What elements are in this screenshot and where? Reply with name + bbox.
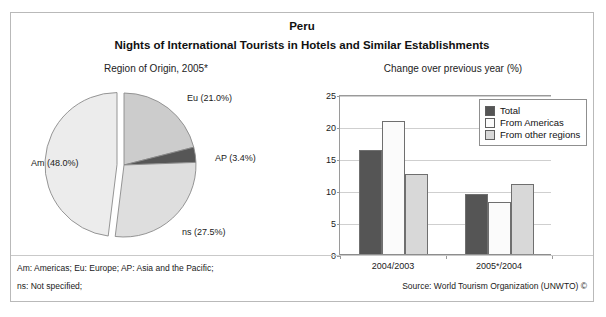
page-title: Peru	[11, 20, 593, 32]
footer-divider	[11, 255, 593, 256]
y-axis-tick-15: 15	[326, 155, 336, 165]
bar-from-americas-1	[488, 202, 511, 255]
pie-chart-svg	[19, 81, 311, 256]
legend-item-from-other-regions: From other regions	[485, 129, 580, 140]
legend-item-from-americas: From Americas	[485, 117, 580, 128]
y-tick-mark-15	[337, 160, 340, 161]
pie-slice-ns	[115, 162, 196, 237]
pie-label-ns: ns (27.5%)	[182, 227, 226, 237]
source-note: Source: World Tourism Organization (UNWT…	[402, 281, 587, 291]
y-axis-tick-5: 5	[331, 219, 336, 229]
pie-chart-caption: Region of Origin, 2005*	[11, 63, 301, 74]
chart-figure: Peru Nights of International Tourists in…	[10, 12, 594, 302]
page-subtitle: Nights of International Tourists in Hote…	[11, 39, 593, 51]
y-axis-tick-25: 25	[326, 91, 336, 101]
pie-label-am: Am (48.0%)	[31, 158, 79, 168]
legend-swatch-from-americas	[485, 118, 495, 128]
chart-legend: Total From Americas From other regions	[479, 99, 587, 146]
bar-from-other-regions-0	[405, 174, 428, 255]
bar-total-0	[359, 150, 382, 255]
legend-item-total: Total	[485, 105, 580, 116]
legend-label-from-americas: From Americas	[500, 117, 564, 128]
gridline-25	[340, 96, 551, 97]
y-axis-tick-10: 10	[326, 187, 336, 197]
legend-label-total: Total	[500, 105, 520, 116]
legend-swatch-total	[485, 106, 495, 116]
pie-label-eu: Eu (21.0%)	[187, 93, 232, 103]
bar-from-other-regions-1	[511, 184, 534, 255]
pie-label-ap: AP (3.4%)	[215, 153, 256, 163]
bar-chart: 0510152025 2004/20032005*/2004 Total Fro…	[311, 81, 595, 271]
bar-from-americas-0	[382, 121, 405, 255]
y-tick-mark-25	[337, 96, 340, 97]
y-axis-tick-20: 20	[326, 123, 336, 133]
footnote-not-specified: ns: Not specified;	[17, 281, 82, 291]
y-tick-mark-5	[337, 224, 340, 225]
pie-chart: Eu (21.0%) AP (3.4%) ns (27.5%) Am (48.0…	[19, 81, 311, 256]
legend-label-from-other-regions: From other regions	[500, 129, 580, 140]
figure-footer: Am: Americas; Eu: Europe; AP: Asia and t…	[11, 255, 593, 301]
legend-swatch-from-other-regions	[485, 130, 495, 140]
footnote-abbreviations: Am: Americas; Eu: Europe; AP: Asia and t…	[17, 263, 214, 273]
bar-total-1	[465, 194, 488, 255]
y-tick-mark-20	[337, 128, 340, 129]
y-tick-mark-10	[337, 192, 340, 193]
bar-chart-caption: Change over previous year (%)	[311, 63, 595, 74]
